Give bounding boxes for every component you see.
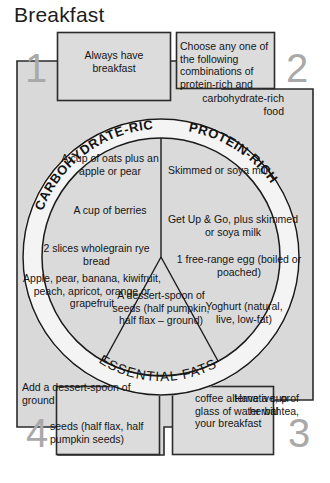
protein-item-3: 1 free-range egg (boiled or poached) — [176, 253, 302, 278]
carbohydrate-item-2: A cup of berries — [57, 204, 163, 217]
corner-number-2: 2 — [286, 48, 308, 88]
corner-text-2-continued: carbohydrate-rich food — [188, 92, 284, 117]
corner-text-1: Always have breakfast — [62, 49, 166, 74]
corner-text-4-continued: seeds (half flax, half pumpkin seeds) — [50, 420, 160, 445]
page-title: Breakfast — [14, 3, 105, 27]
protein-item-2: Get Up & Go, plus skimmed or soya milk — [164, 213, 302, 238]
corner-text-2: Choose any one of the following combinat… — [180, 40, 280, 90]
corner-text-3: coffee alternative, or glass of water wi… — [195, 392, 299, 430]
carbohydrate-item-1: A cup of oats plus an apple or pear — [57, 152, 163, 177]
corner-number-4: 4 — [26, 413, 48, 453]
diagram-canvas: CARBOHYDRATE-RICH PROTEIN-RICH ESSENTIAL… — [0, 0, 330, 483]
corner-number-1: 1 — [25, 48, 47, 88]
corner-text-4: Add a dessert-spoon of ground — [22, 381, 140, 406]
carbohydrate-item-3: 2 slices wholegrain rye bread — [30, 242, 163, 267]
protein-item-1: Skimmed or soya milk — [168, 164, 288, 177]
essential-fats-item-1: A dessert-spoon of seeds (half pumpkin, … — [111, 289, 211, 327]
